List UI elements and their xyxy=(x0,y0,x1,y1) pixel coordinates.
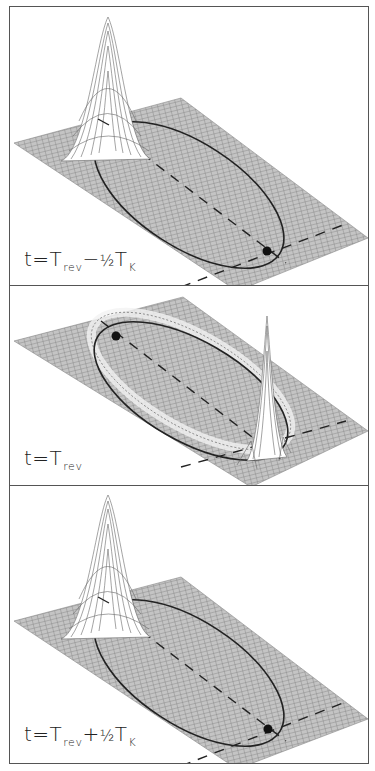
time-label-bottom: t=Trev+½TK xyxy=(24,722,136,749)
particle-dot xyxy=(263,247,272,256)
surface-plot-top xyxy=(9,7,369,286)
time-label-middle: t=Trev xyxy=(24,446,82,473)
particle-dot xyxy=(112,332,121,341)
panel-top: t=Trev−½TK xyxy=(9,6,369,286)
particle-dot xyxy=(264,725,273,734)
wave-packet-figure: t=Trev−½TK xyxy=(0,0,375,771)
panel-middle: t=Trev xyxy=(9,285,369,486)
time-label-top: t=Trev−½TK xyxy=(24,247,136,274)
panel-bottom: t=Trev+½TK xyxy=(9,485,369,764)
